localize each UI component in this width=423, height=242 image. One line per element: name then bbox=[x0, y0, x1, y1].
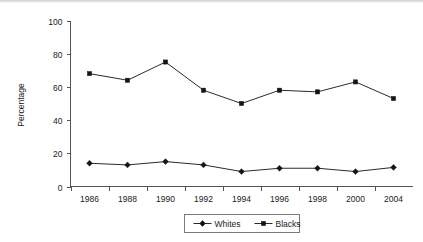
chart-figure: Percentage 020406080100 1986198819901992… bbox=[0, 0, 423, 242]
datapoint-blacks-square-marker bbox=[391, 96, 395, 100]
datapoint-blacks-square-marker bbox=[353, 80, 357, 84]
x-tick-label: 1998 bbox=[308, 194, 327, 204]
datapoint-whites-diamond-marker bbox=[277, 165, 283, 171]
y-tick-label: 40 bbox=[53, 116, 63, 126]
x-tick-label: 2004 bbox=[384, 194, 403, 204]
series-blacks bbox=[87, 60, 395, 106]
chart-legend[interactable]: WhitesBlacks bbox=[185, 215, 301, 233]
datapoint-whites-diamond-marker bbox=[353, 169, 359, 175]
x-tick-label: 1996 bbox=[270, 194, 289, 204]
y-tick-label: 80 bbox=[53, 50, 63, 60]
datapoint-whites-diamond-marker bbox=[315, 165, 321, 171]
legend-label-whites: Whites bbox=[215, 219, 241, 229]
datapoint-blacks-square-marker bbox=[125, 78, 129, 82]
y-tick-label: 20 bbox=[53, 149, 63, 159]
datapoint-whites-diamond-marker bbox=[201, 162, 207, 168]
y-tick-label: 0 bbox=[58, 183, 63, 193]
datapoint-whites-diamond-marker bbox=[391, 165, 397, 171]
datapoint-blacks-square-marker bbox=[277, 88, 281, 92]
line-chart: Percentage 020406080100 1986198819901992… bbox=[0, 0, 423, 242]
datapoint-blacks-square-marker bbox=[315, 90, 319, 94]
y-axis-title: Percentage bbox=[16, 83, 26, 127]
x-tick-label: 2000 bbox=[346, 194, 365, 204]
series-group bbox=[87, 60, 397, 175]
datapoint-blacks-square-marker bbox=[87, 72, 91, 76]
x-tick-label: 1992 bbox=[194, 194, 213, 204]
series-line-blacks bbox=[90, 62, 394, 104]
legend-blacks-square-marker bbox=[261, 221, 265, 225]
legend-label-blacks: Blacks bbox=[276, 219, 301, 229]
datapoint-whites-diamond-marker bbox=[239, 169, 245, 175]
datapoint-whites-diamond-marker bbox=[125, 162, 131, 168]
y-axis-ticks: 020406080100 bbox=[48, 17, 70, 193]
series-whites bbox=[87, 159, 397, 175]
x-tick-label: 1988 bbox=[118, 194, 137, 204]
x-tick-label: 1994 bbox=[232, 194, 251, 204]
y-tick-label: 60 bbox=[53, 83, 63, 93]
x-tick-label: 1986 bbox=[80, 194, 99, 204]
x-axis-ticks: 198619881990199219941996199820002004 bbox=[72, 187, 404, 204]
datapoint-whites-diamond-marker bbox=[163, 159, 169, 165]
datapoint-blacks-square-marker bbox=[239, 101, 243, 105]
y-tick-label: 100 bbox=[48, 17, 62, 27]
top-edge-band bbox=[0, 0, 423, 3]
datapoint-whites-diamond-marker bbox=[87, 160, 93, 166]
datapoint-blacks-square-marker bbox=[163, 60, 167, 64]
datapoint-blacks-square-marker bbox=[201, 88, 205, 92]
x-tick-label: 1990 bbox=[156, 194, 175, 204]
